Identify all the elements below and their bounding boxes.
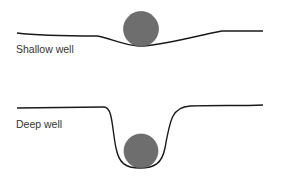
shallow-well <box>17 12 263 47</box>
deep-well-ball <box>124 134 158 168</box>
shallow-well-ball <box>124 12 159 47</box>
deep-well-label: Deep well <box>16 118 62 130</box>
well-diagram <box>0 0 281 177</box>
deep-well <box>17 105 263 168</box>
shallow-well-label: Shallow well <box>16 43 74 55</box>
